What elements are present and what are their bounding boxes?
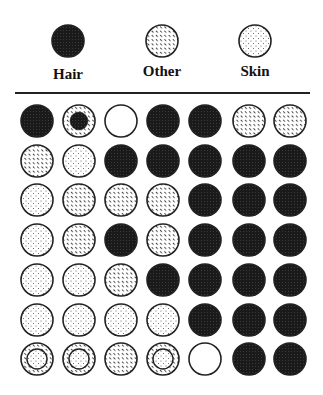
cell-circle-hair bbox=[189, 264, 221, 296]
cell-circle-skin bbox=[21, 304, 53, 336]
cell-circle-other bbox=[147, 224, 179, 256]
grid-cell bbox=[274, 105, 306, 137]
grid-cell bbox=[21, 145, 53, 177]
grid-cell bbox=[189, 145, 221, 177]
cell-circle-skin bbox=[147, 304, 179, 336]
grid-cell bbox=[189, 224, 221, 256]
legend-label-skin: Skin bbox=[215, 63, 295, 80]
cell-circle-skin bbox=[21, 224, 53, 256]
grid-cell bbox=[233, 145, 265, 177]
grid-cell bbox=[274, 304, 306, 336]
cell-circle-skin bbox=[21, 184, 53, 216]
cell-circle-hair bbox=[147, 105, 179, 137]
grid-cell bbox=[189, 105, 221, 137]
cell-circle-skin bbox=[63, 264, 95, 296]
cell-circle-hair bbox=[274, 184, 306, 216]
cell-circle-hair bbox=[189, 184, 221, 216]
grid-cell bbox=[233, 343, 265, 375]
cell-circle-hair bbox=[274, 224, 306, 256]
grid-cell bbox=[274, 224, 306, 256]
legend bbox=[52, 25, 271, 57]
cell-grid bbox=[21, 105, 306, 375]
grid-cell bbox=[63, 343, 95, 375]
legend-label-hair: Hair bbox=[28, 66, 108, 83]
grid-cell bbox=[105, 145, 137, 177]
cell-circle-hair bbox=[233, 304, 265, 336]
grid-cell bbox=[21, 304, 53, 336]
cell-circle-hair bbox=[274, 264, 306, 296]
diagram-canvas bbox=[0, 0, 323, 395]
cell-circle-skin bbox=[21, 264, 53, 296]
grid-cell bbox=[274, 184, 306, 216]
cell-circle-other bbox=[105, 184, 137, 216]
cell-circle-hair bbox=[233, 264, 265, 296]
grid-cell bbox=[63, 184, 95, 216]
cell-circle-other bbox=[274, 105, 306, 137]
cell-circle-hair bbox=[189, 145, 221, 177]
cell-circle-other bbox=[63, 224, 95, 256]
cell-circle-empty bbox=[189, 343, 221, 375]
grid-cell bbox=[233, 184, 265, 216]
grid-cell bbox=[63, 105, 95, 137]
cell-circle-skin bbox=[63, 304, 95, 336]
cell-circle-other bbox=[147, 184, 179, 216]
cell-circle-hair bbox=[274, 343, 306, 375]
cell-circle-hair bbox=[189, 224, 221, 256]
divider-line bbox=[15, 92, 310, 94]
grid-cell bbox=[21, 105, 53, 137]
grid-cell bbox=[105, 264, 137, 296]
cell-circle-other bbox=[233, 105, 265, 137]
cell-circle-skin bbox=[105, 304, 137, 336]
grid-cell bbox=[147, 224, 179, 256]
cell-circle-empty bbox=[105, 105, 137, 137]
cell-circle-hair bbox=[233, 145, 265, 177]
grid-cell bbox=[274, 145, 306, 177]
grid-cell bbox=[274, 264, 306, 296]
grid-cell bbox=[63, 145, 95, 177]
grid-cell bbox=[105, 184, 137, 216]
grid-cell bbox=[21, 343, 53, 375]
grid-cell bbox=[233, 105, 265, 137]
cell-center-skin bbox=[27, 349, 47, 369]
cell-circle-skin bbox=[63, 145, 95, 177]
grid-cell bbox=[233, 304, 265, 336]
cell-circle-hair bbox=[274, 145, 306, 177]
grid-cell bbox=[63, 264, 95, 296]
grid-cell bbox=[63, 224, 95, 256]
grid-cell bbox=[189, 304, 221, 336]
grid-cell bbox=[21, 264, 53, 296]
grid-cell bbox=[147, 343, 179, 375]
grid-cell bbox=[147, 184, 179, 216]
grid-cell bbox=[147, 304, 179, 336]
grid-cell bbox=[21, 224, 53, 256]
grid-cell bbox=[63, 304, 95, 336]
cell-circle-hair bbox=[189, 105, 221, 137]
cell-circle-other bbox=[105, 343, 137, 375]
grid-cell bbox=[147, 264, 179, 296]
cell-circle-hair bbox=[21, 105, 53, 137]
cell-circle-hair bbox=[274, 304, 306, 336]
cell-circle-hair bbox=[105, 224, 137, 256]
grid-cell bbox=[105, 224, 137, 256]
cell-circle-hair bbox=[233, 343, 265, 375]
grid-cell bbox=[189, 343, 221, 375]
cell-center-hair bbox=[70, 112, 88, 130]
grid-cell bbox=[105, 343, 137, 375]
cell-circle-other bbox=[105, 264, 137, 296]
grid-cell bbox=[105, 304, 137, 336]
grid-cell bbox=[274, 343, 306, 375]
cell-circle-hair bbox=[147, 264, 179, 296]
grid-cell bbox=[21, 184, 53, 216]
grid-cell bbox=[147, 145, 179, 177]
cell-circle-hair bbox=[189, 304, 221, 336]
cell-circle-hair bbox=[105, 145, 137, 177]
legend-swatch-other bbox=[146, 25, 178, 57]
cell-center-skin bbox=[153, 349, 173, 369]
grid-cell bbox=[189, 184, 221, 216]
cell-circle-hair bbox=[233, 184, 265, 216]
grid-cell bbox=[233, 224, 265, 256]
legend-swatch-skin bbox=[239, 25, 271, 57]
cell-circle-hair bbox=[233, 224, 265, 256]
cell-center-skin bbox=[69, 349, 89, 369]
cell-circle-hair bbox=[147, 145, 179, 177]
